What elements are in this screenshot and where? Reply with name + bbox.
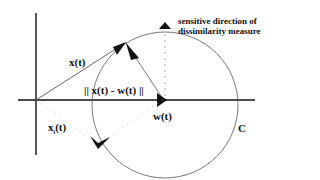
- w-vector-arrowhead-icon: [157, 93, 167, 107]
- x-vector-arrowhead-icon: [113, 42, 126, 55]
- label-xi-subscript: i: [54, 129, 56, 135]
- label-sensitive-direction-line1: sensitive direction of: [178, 16, 257, 26]
- label-w-t: w(t): [153, 111, 172, 122]
- label-x-t: x(t): [69, 57, 86, 68]
- label-xi-arg: (t): [55, 121, 66, 133]
- label-xi-base: x: [48, 121, 54, 133]
- label-xi-t: xi(t): [48, 122, 66, 133]
- label-circle-c: C: [238, 123, 246, 134]
- sensitive-direction-arrowhead-icon: [159, 22, 171, 29]
- label-norm-difference: || x(t) - w(t) ||: [84, 85, 144, 96]
- label-sensitive-direction-line2: dissimilarity measure: [178, 26, 261, 36]
- difference-vector-arrowhead-icon: [126, 43, 139, 60]
